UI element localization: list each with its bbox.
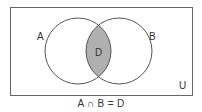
intersection-label: D [95,47,102,58]
caption: A ∩ B = D [0,98,202,109]
set-a-label: A [37,31,44,42]
set-b-label: B [149,31,156,42]
venn-diagram: A B D U [0,0,202,112]
universe-label: U [179,80,186,91]
